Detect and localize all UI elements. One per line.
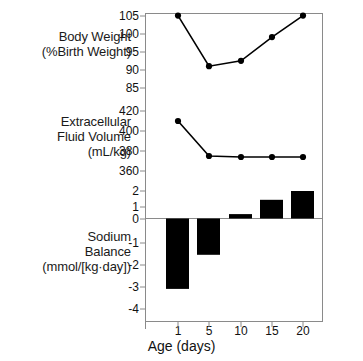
ecf-volume-marker bbox=[175, 118, 181, 124]
y-tick-marks-ecf bbox=[140, 111, 146, 171]
ecf-volume-line bbox=[178, 121, 303, 157]
body-weight-marker bbox=[238, 58, 244, 64]
ecf-volume-marker bbox=[206, 153, 212, 159]
series-body-weight bbox=[175, 13, 306, 70]
sodium-bar bbox=[229, 214, 252, 218]
sodium-bar bbox=[291, 191, 314, 219]
y-tick-marks-sodium bbox=[140, 191, 146, 309]
body-weight-marker bbox=[175, 13, 181, 19]
ecf-volume-marker bbox=[300, 154, 306, 160]
ecf-volume-marker bbox=[238, 154, 244, 160]
ecf-volume-marker bbox=[269, 154, 275, 160]
sodium-bar bbox=[260, 200, 283, 219]
x-tick-marks bbox=[178, 322, 303, 328]
figure-panel: Body Weight (%Birth Weight) Extracellula… bbox=[0, 0, 363, 361]
plot-canvas bbox=[0, 0, 363, 361]
series-sodium-balance bbox=[166, 191, 314, 289]
series-ecf-volume bbox=[175, 118, 306, 160]
body-weight-marker bbox=[206, 63, 212, 69]
sodium-bar bbox=[197, 219, 220, 255]
y-tick-marks-bodyweight bbox=[140, 16, 146, 88]
body-weight-marker bbox=[269, 34, 275, 40]
sodium-bar bbox=[166, 219, 189, 289]
body-weight-marker bbox=[300, 13, 306, 19]
